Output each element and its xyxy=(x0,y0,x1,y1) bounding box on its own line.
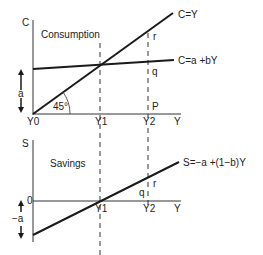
bottom-x-axis-label: Y xyxy=(174,203,181,214)
tick-y1-top: Y1 xyxy=(95,116,108,127)
c-equals-y-label: C=Y xyxy=(178,9,198,20)
point-r-bottom: r xyxy=(153,178,157,189)
bottom-panel-title: Savings xyxy=(50,158,86,169)
tick-y2-top: Y2 xyxy=(143,116,156,127)
origin-label: 0 xyxy=(27,195,33,206)
intercept-a-label: a xyxy=(18,88,24,99)
point-p-top: P xyxy=(152,101,159,112)
point-q-bottom: q xyxy=(139,187,145,198)
intercept-neg-a-label: −a xyxy=(12,213,24,224)
bottom-panel: S Savings 0 S=−a +(1−b)Y −a q r Y1 Y2 Y xyxy=(12,128,246,242)
savings-function-label: S=−a +(1−b)Y xyxy=(183,157,246,168)
tick-y2-bottom: Y2 xyxy=(143,203,156,214)
point-q-top: q xyxy=(152,66,158,77)
top-panel: C Consumption C=Y C=a +bY 45° a r q P Y0… xyxy=(18,9,218,255)
savings-function-line xyxy=(33,162,179,235)
top-x-axis-label: Y xyxy=(174,116,181,127)
consumption-function-label: C=a +bY xyxy=(178,55,218,66)
s-axis-label: S xyxy=(22,138,29,149)
tick-y1-bottom: Y1 xyxy=(95,203,108,214)
c-axis-label: C xyxy=(22,17,29,28)
consumption-savings-diagram: C Consumption C=Y C=a +bY 45° a r q P Y0… xyxy=(0,0,263,255)
tick-y0: Y0 xyxy=(27,116,40,127)
point-r-top: r xyxy=(153,31,157,42)
angle-label: 45° xyxy=(53,101,68,112)
top-panel-title: Consumption xyxy=(41,29,100,40)
